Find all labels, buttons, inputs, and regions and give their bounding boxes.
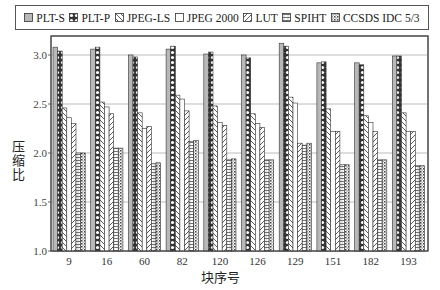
bar-spiht [340,165,345,251]
legend-label: LUT [255,12,277,24]
bar-jpeg-2000 [105,107,110,251]
bar-jpeg-ls [213,106,218,251]
bar-plt-s [317,63,322,251]
bar-spiht [189,141,194,251]
bar-plt-p [359,65,364,251]
legend-swatch-icon [243,13,252,22]
x-tick-label: 151 [325,255,342,267]
plot-area: 1.01.52.02.53.09166082120126129151182193 [33,36,428,267]
bar-plt-p [284,46,289,251]
legend-label: PLT-S [36,12,65,24]
bar-lut [298,143,303,251]
bar-lut [185,111,190,251]
legend-item: PLT-P [69,12,110,24]
bar-plt-s [392,56,397,251]
bar-jpeg-ls [402,113,407,251]
x-tick-label: 9 [66,255,72,267]
bar-plt-s [279,43,284,251]
bar-plt-p [133,57,138,251]
y-tick-label: 1.5 [33,196,47,208]
x-tick-label: 60 [139,255,151,267]
legend-label: JPEG 2000 [187,12,239,24]
x-axis-label: 块序号 [0,267,440,286]
legend-label: JPEG-LS [127,12,170,24]
bar-spiht [378,160,383,251]
legend-item: CCSDS IDC 5/3 [331,12,420,24]
bar-ccsds-idc-5-3 [307,143,312,251]
legend-item: PLT-S [24,12,65,24]
legend-swatch-icon [24,13,33,22]
bar-jpeg-ls [62,108,67,251]
bar-plt-p [246,58,251,251]
bar-plt-s [91,49,96,251]
y-tick-label: 2.5 [33,98,47,110]
bar-plt-p [58,51,63,251]
legend-label: CCSDS IDC 5/3 [343,12,420,24]
bar-jpeg-2000 [142,129,147,252]
bar-ccsds-idc-5-3 [382,160,387,251]
x-tick-label: 120 [212,255,229,267]
bar-jpeg-ls [251,114,256,251]
legend-swatch-icon [69,13,78,22]
legend-swatch-icon [115,13,124,22]
bar-plt-s [53,47,58,251]
bar-lut [109,114,114,251]
legend-label: SPIHT [294,12,326,24]
bar-jpeg-2000 [67,118,72,251]
y-axis-label: 压缩比 [8,140,27,182]
bar-plt-s [355,63,360,251]
legend-item: LUT [243,12,277,24]
bar-jpeg-ls [288,97,293,251]
bar-plt-s [128,55,133,251]
bar-ccsds-idc-5-3 [194,140,199,251]
bar-plt-p [95,47,100,251]
bar-jpeg-2000 [368,123,373,251]
x-tick-label: 129 [287,255,304,267]
bar-spiht [265,160,270,251]
bar-lut [335,131,340,251]
bar-ccsds-idc-5-3 [231,159,236,251]
bar-jpeg-ls [364,116,369,251]
bar-jpeg-2000 [218,123,223,251]
bar-spiht [151,164,156,251]
bar-lut [260,128,265,251]
bar-lut [222,126,227,251]
legend: PLT-SPLT-PJPEG-LSJPEG 2000LUTSPIHTCCSDS … [15,5,429,30]
y-tick-label: 2.0 [33,147,47,159]
legend-item: SPIHT [282,12,326,24]
x-tick-label: 182 [362,255,379,267]
legend-swatch-icon [282,13,291,22]
legend-swatch-icon [331,13,340,22]
bar-jpeg-2000 [331,131,336,251]
bar-jpeg-ls [175,95,180,251]
legend-swatch-icon [175,13,184,22]
bar-jpeg-ls [100,102,105,251]
bar-jpeg-2000 [180,99,185,251]
legend-label: PLT-P [81,12,110,24]
bar-ccsds-idc-5-3 [118,148,123,251]
bar-spiht [227,160,232,251]
bar-spiht [302,145,307,251]
bar-lut [373,131,378,251]
bar-plt-s [204,54,209,251]
bar-plt-p [208,52,213,251]
x-tick-label: 16 [101,255,113,267]
bar-ccsds-idc-5-3 [81,153,86,251]
bar-plt-s [242,55,247,251]
bar-jpeg-2000 [293,103,298,251]
x-tick-label: 126 [249,255,266,267]
bar-spiht [76,153,81,251]
x-tick-label: 82 [177,255,188,267]
legend-item: JPEG 2000 [175,12,239,24]
bar-chart: 1.01.52.02.53.09166082120126129151182193 [0,0,440,290]
bar-ccsds-idc-5-3 [345,165,350,251]
x-tick-label: 193 [400,255,417,267]
bar-ccsds-idc-5-3 [269,160,274,251]
bar-jpeg-ls [326,109,331,251]
bar-ccsds-idc-5-3 [420,166,425,251]
bar-jpeg-2000 [255,124,260,251]
bar-spiht [114,148,119,251]
bar-jpeg-ls [138,113,143,251]
bar-plt-s [166,49,171,251]
y-tick-label: 3.0 [33,49,47,61]
